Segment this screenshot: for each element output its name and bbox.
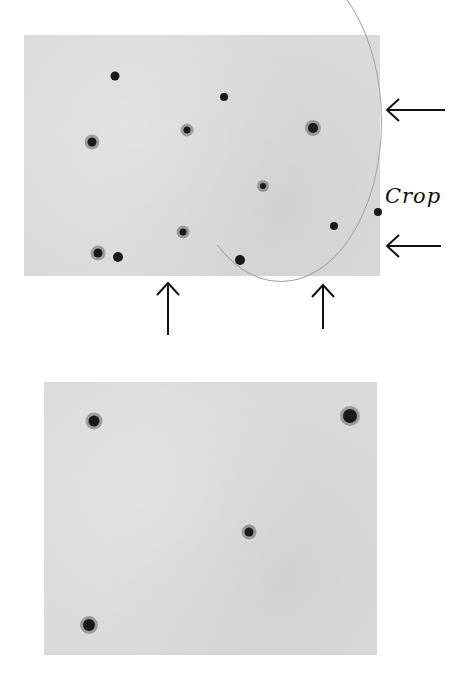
colony-dot (235, 255, 245, 265)
colony-dot (113, 252, 123, 262)
colony-dot (111, 72, 120, 81)
crop-label: Crop (385, 184, 441, 208)
crop-arrow-up-left-icon (155, 279, 181, 337)
colony-dot (180, 229, 187, 236)
colony-dot (83, 619, 95, 631)
colony-dot (88, 138, 97, 147)
colony-dot (343, 409, 357, 423)
crop-arrow-right-top-icon (383, 97, 447, 123)
crop-arrow-right-bottom-icon (383, 233, 443, 259)
colony-dot (220, 93, 228, 101)
colony-dot (374, 208, 382, 216)
colony-dot (260, 183, 266, 189)
colony-dot (245, 528, 254, 537)
colony-dot (94, 249, 103, 258)
colony-dot (89, 416, 100, 427)
colony-dot (308, 123, 318, 133)
colony-dot (184, 127, 191, 134)
crop-arrow-up-right-icon (310, 281, 336, 331)
colony-dot (330, 222, 338, 230)
